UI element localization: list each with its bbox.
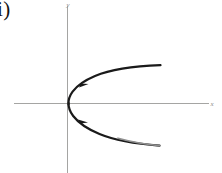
parabola-figure: i) x y (0, 0, 222, 173)
parabola-lower-branch (68, 103, 159, 146)
figure-canvas: x y (0, 0, 222, 173)
x-axis-label: x (209, 100, 214, 108)
axes-group (14, 6, 209, 173)
parabola-curve-group (68, 65, 160, 145)
y-axis-label: y (65, 1, 70, 9)
